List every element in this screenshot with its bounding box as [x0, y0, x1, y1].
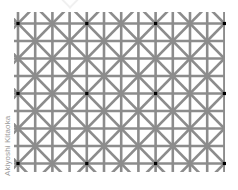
black-dot — [85, 92, 88, 95]
diagonal-line — [0, 6, 1, 181]
black-dot — [16, 22, 19, 25]
black-dot — [223, 22, 226, 25]
black-dot — [85, 162, 88, 165]
grid-illusion — [0, 0, 238, 190]
author-credit: Akiyoshi Kitaoka — [3, 116, 12, 176]
black-dot — [16, 162, 19, 165]
black-dot — [223, 92, 226, 95]
black-dot — [16, 92, 19, 95]
black-dot — [154, 162, 157, 165]
black-dot — [223, 162, 226, 165]
black-dot — [154, 92, 157, 95]
illusion-image: Akiyoshi Kitaoka — [0, 0, 238, 190]
black-dot — [85, 22, 88, 25]
black-dot — [154, 22, 157, 25]
grid-lines — [0, 6, 238, 181]
